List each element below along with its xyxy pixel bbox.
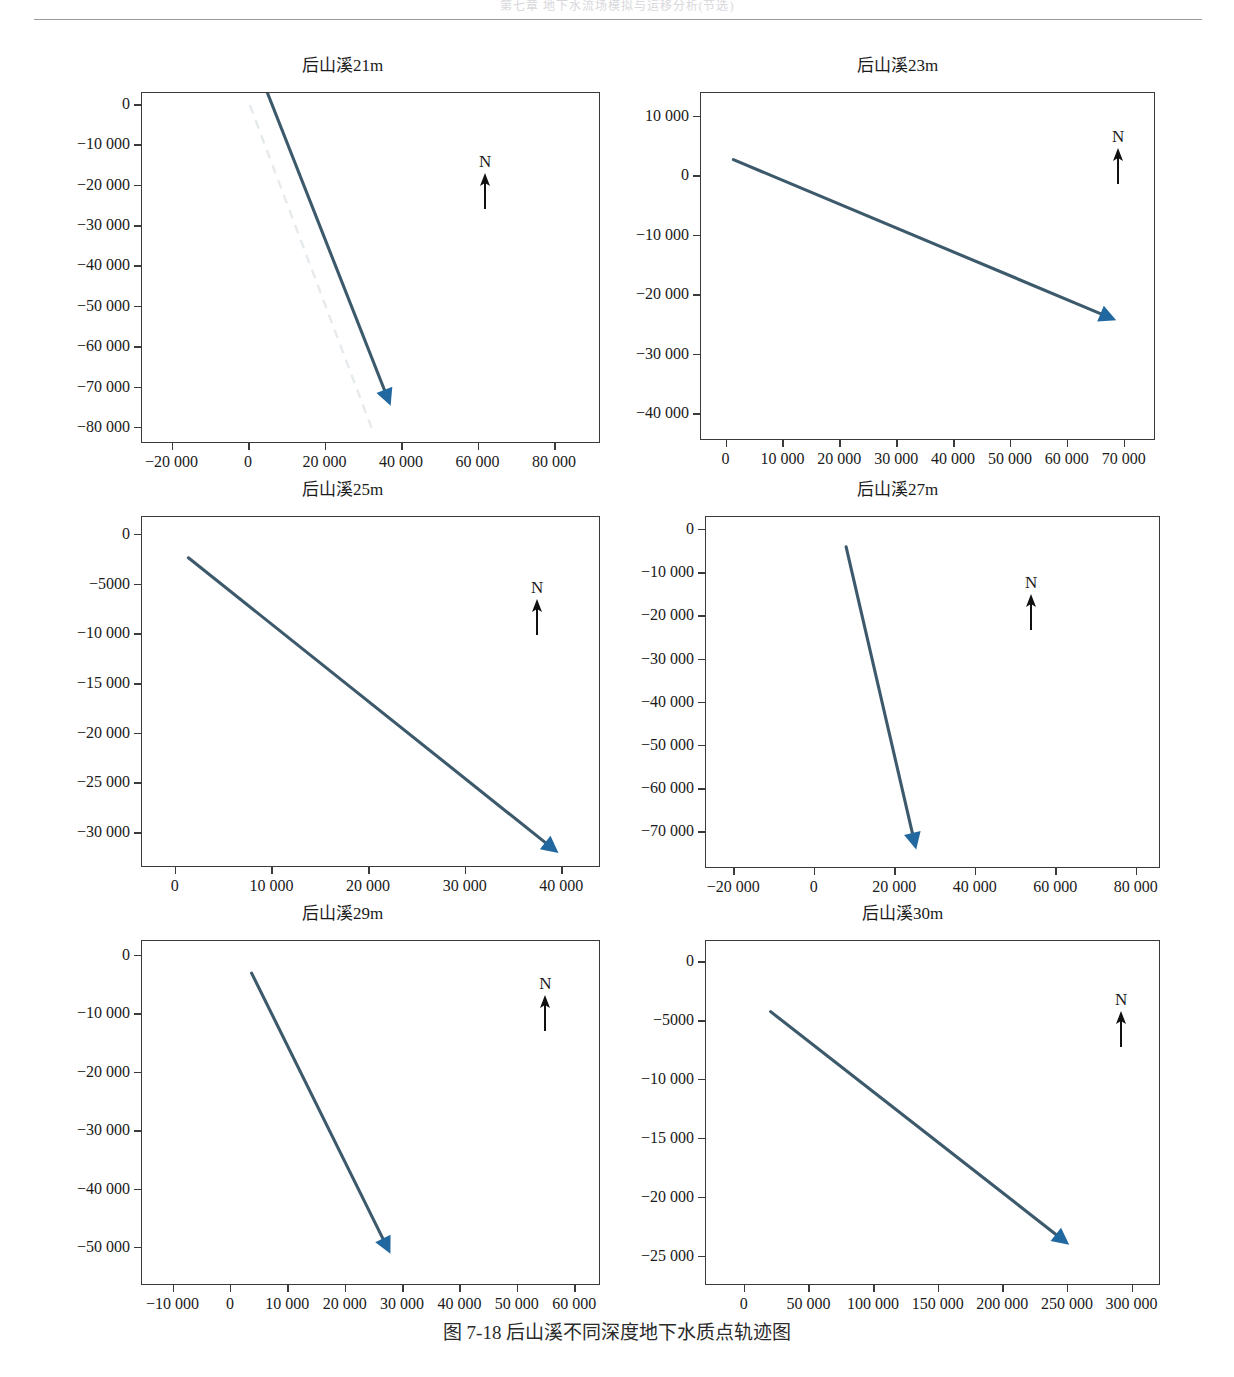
x-tick-label: 20 000 [872,878,916,896]
plot-area-houshanxi-30m [705,940,1160,1285]
y-tick-label: −30 000 [77,824,130,840]
y-tick-mark [698,659,705,661]
figure-caption: 图 7-18 后山溪不同深度地下水质点轨迹图 [0,1320,1234,1346]
north-arrow-icon [1025,594,1037,632]
y-tick-mark [134,832,141,834]
x-tick-label: 80 000 [1114,878,1158,896]
y-tick-mark [693,116,700,118]
y-tick-mark [698,831,705,833]
x-tick-label: 30 000 [874,450,918,468]
y-tick-mark [693,413,700,415]
y-tick-label: −5000 [89,576,130,592]
x-tick-label: 0 [740,1295,748,1313]
x-tick-label: 40 000 [931,450,975,468]
y-tick-label: 0 [122,947,130,963]
x-tick-label: 60 000 [552,1295,596,1313]
y-tick-mark [134,346,141,348]
x-tick-mark [1055,868,1057,875]
chart-panel-houshanxi-21m: 后山溪21m0−10 000−20 000−30 000−40 000−50 0… [70,56,615,476]
y-tick-mark [698,1256,705,1258]
x-tick-mark [894,868,896,875]
y-tick-label: −70 000 [77,379,130,395]
y-tick-mark [134,144,141,146]
y-tick-mark [134,306,141,308]
y-tick-label: 0 [686,953,694,969]
trajectory-line [733,160,1105,316]
x-tick-label: 60 000 [1033,878,1077,896]
y-tick-mark [698,745,705,747]
y-tick-mark [134,427,141,429]
y-tick-mark [134,1130,141,1132]
y-tick-label: −60 000 [641,780,694,796]
x-tick-mark [574,1285,576,1292]
y-tick-label: −70 000 [641,823,694,839]
compass-rose: N [472,153,498,211]
y-tick-mark [698,615,705,617]
compass-north-label: N [539,974,551,993]
trajectory-line [267,93,386,395]
x-tick-label: 0 [810,878,818,896]
y-tick-label: −30 000 [636,346,689,362]
x-tick-label: −20 000 [145,453,198,471]
x-tick-mark [782,440,784,447]
y-tick-mark [134,265,141,267]
x-tick-mark [517,1285,519,1292]
x-tick-label: 60 000 [1045,450,1089,468]
y-tick-mark [693,175,700,177]
trajectory-line [846,547,913,838]
y-tick-label: −40 000 [641,694,694,710]
x-tick-label: 50 000 [786,1295,830,1313]
compass-north-label: N [479,152,491,171]
trajectory-plot-houshanxi-21m [142,93,601,444]
y-tick-label: −20 000 [641,607,694,623]
y-tick-mark [134,955,141,957]
north-arrow-icon [1115,1011,1127,1049]
y-tick-label: −10 000 [77,1005,130,1021]
trajectory-arrowhead-icon [1051,1228,1070,1245]
x-tick-label: 40 000 [539,877,583,895]
x-tick-label: 40 000 [437,1295,481,1313]
y-tick-mark [693,354,700,356]
x-tick-mark [175,867,177,874]
x-tick-mark [271,867,273,874]
y-tick-label: −10 000 [77,625,130,641]
x-tick-mark [1124,440,1126,447]
chart-panel-houshanxi-25m: 后山溪25m0−5000−10 000−15 000−20 000−25 000… [70,480,615,900]
plot-area-houshanxi-25m [141,516,600,867]
y-tick-label: −20 000 [77,177,130,193]
y-tick-mark [134,1189,141,1191]
x-tick-mark [287,1285,289,1292]
x-tick-label: 0 [226,1295,234,1313]
y-tick-mark [134,782,141,784]
chart-panel-houshanxi-23m: 后山溪23m10 0000−10 000−20 000−30 000−40 00… [625,56,1170,476]
y-tick-mark [134,534,141,536]
trajectory-plot-houshanxi-23m [701,93,1156,441]
x-tick-mark [368,867,370,874]
x-tick-label: 300 000 [1106,1295,1158,1313]
chart-title-houshanxi-21m: 后山溪21m [70,56,615,76]
y-tick-label: −10 000 [636,227,689,243]
y-tick-label: −10 000 [641,564,694,580]
x-tick-mark [1002,1285,1004,1292]
x-tick-mark [814,868,816,875]
x-tick-mark [465,867,467,874]
x-tick-mark [733,868,735,875]
compass-rose: N [532,975,558,1033]
trajectory-line [771,1012,1060,1238]
y-tick-mark [134,683,141,685]
chart-grid: 后山溪21m0−10 000−20 000−30 000−40 000−50 0… [0,56,1234,1311]
x-tick-label: 40 000 [379,453,423,471]
x-tick-label: 80 000 [532,453,576,471]
plot-area-houshanxi-27m [705,516,1160,868]
x-tick-mark [744,1285,746,1292]
y-tick-label: −50 000 [77,1239,130,1255]
plot-area-houshanxi-21m [141,92,600,443]
x-tick-mark [1067,440,1069,447]
y-tick-label: −30 000 [77,1122,130,1138]
chart-panel-houshanxi-27m: 后山溪27m0−10 000−20 000−30 000−40 000−50 0… [625,480,1170,900]
y-tick-mark [134,1013,141,1015]
y-tick-mark [698,788,705,790]
x-tick-label: 20 000 [817,450,861,468]
y-tick-label: −50 000 [641,737,694,753]
x-tick-mark [1010,440,1012,447]
